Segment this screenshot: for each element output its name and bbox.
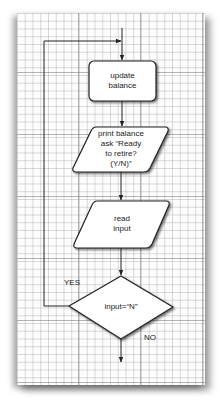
flowchart-diagram: [0, 0, 221, 401]
yes-label: YES: [64, 278, 80, 288]
label-line: print balance: [80, 129, 162, 139]
label-line: read: [81, 214, 163, 224]
decision-label: input=“N”: [91, 302, 151, 312]
label-line: to retire?: [80, 149, 162, 159]
label-line: input: [81, 224, 163, 234]
label-line: (Y/N)”: [80, 159, 162, 169]
no-label: NO: [144, 333, 156, 343]
print-balance-label: print balance ask “Ready to retire? (Y/N…: [80, 129, 162, 169]
label-line: balance: [89, 81, 156, 91]
update-balance-label: update balance: [89, 71, 156, 91]
label-line: input=“N”: [91, 302, 151, 312]
label-line: update: [89, 71, 156, 81]
label-line: ask “Ready: [80, 139, 162, 149]
read-input-label: read input: [81, 214, 163, 234]
